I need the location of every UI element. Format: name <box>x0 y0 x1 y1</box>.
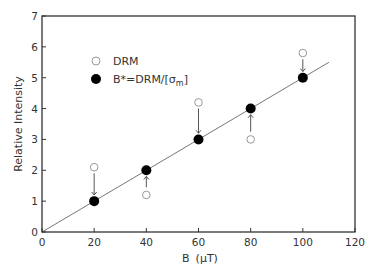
x-tick-label: 0 <box>39 236 46 248</box>
y-tick-label: 0 <box>31 226 38 238</box>
bstar-point <box>89 196 99 206</box>
x-tick-label: 120 <box>345 236 365 248</box>
x-axis-label: B(μT) <box>182 252 218 265</box>
legend-filled-circle-icon <box>91 74 101 84</box>
bstar-point <box>141 165 151 175</box>
y-tick-label: 3 <box>31 133 38 145</box>
y-tick-label: 7 <box>31 10 38 22</box>
legend-label-bstar: B*=DRM/[σm] <box>113 73 188 88</box>
chart-svg: 02040608010012001234567 DRM B*=DRM/[σm] … <box>0 0 380 278</box>
bstar-point <box>194 134 204 144</box>
x-tick-label: 40 <box>140 236 153 248</box>
x-tick-label: 100 <box>293 236 313 248</box>
y-tick-label: 2 <box>31 164 38 176</box>
legend: DRM B*=DRM/[σm] <box>91 55 188 88</box>
x-tick-label: 80 <box>244 236 257 248</box>
chart-container: 02040608010012001234567 DRM B*=DRM/[σm] … <box>0 0 380 278</box>
y-tick-label: 1 <box>31 195 38 207</box>
drm-point <box>90 163 98 171</box>
fit-line <box>42 62 329 232</box>
drm-point <box>247 136 255 144</box>
x-tick-label: 60 <box>192 236 205 248</box>
y-tick-label: 6 <box>31 41 38 53</box>
drm-point <box>195 99 203 107</box>
drm-point <box>143 191 151 199</box>
bstar-point <box>246 104 256 114</box>
legend-open-circle-icon <box>92 57 100 65</box>
y-tick-label: 4 <box>31 103 38 115</box>
y-axis-label: Relative Intensity <box>12 76 25 172</box>
legend-label-drm: DRM <box>113 55 139 68</box>
drm-point <box>299 49 307 57</box>
x-tick-label: 20 <box>87 236 100 248</box>
y-tick-label: 5 <box>31 72 38 84</box>
bstar-point <box>298 73 308 83</box>
